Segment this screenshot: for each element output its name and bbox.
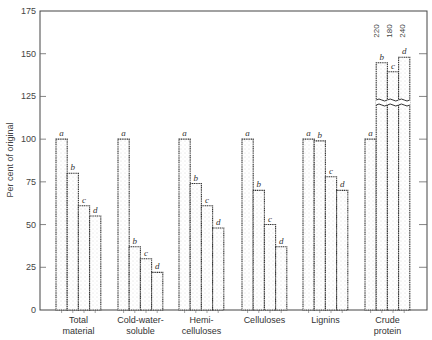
y-axis-label: Per cent of original [5, 122, 15, 197]
bar: b [67, 162, 78, 313]
category-label: Cold-water- [117, 315, 164, 325]
category-label: material [62, 326, 94, 336]
bar: a [303, 128, 314, 313]
bar-letter-label: d [279, 236, 284, 246]
y-tick-label: 125 [21, 91, 36, 101]
bar-value-label: 180 [385, 24, 394, 38]
bar-letter-label: b [257, 179, 262, 189]
y-tick-label: 175 [21, 6, 36, 16]
bar-letter-label: b [318, 130, 323, 140]
bar-letter-label: d [155, 261, 160, 271]
x-axis-labels: TotalmaterialCold-water-solubleHemi-cell… [62, 315, 401, 336]
bar: 240d [398, 24, 410, 313]
bar-letter-label: b [380, 52, 385, 62]
bar-letter-label: b [71, 162, 76, 172]
bar-letter-label: a [306, 128, 311, 138]
bar-letter-label: d [340, 179, 345, 189]
bar: b [190, 173, 201, 313]
y-tick-label: 25 [26, 262, 36, 272]
bar: a [242, 128, 253, 313]
bar-value-label: 220 [372, 24, 381, 38]
bar: a [118, 128, 129, 313]
bar-letter-label: c [144, 248, 148, 258]
y-tick-label: 100 [21, 134, 36, 144]
y-tick-label: 0 [31, 305, 36, 315]
bar-chart: 0255075100125150175 abcdabcdabcdabcdabcd… [0, 0, 432, 340]
bar: d [90, 205, 101, 313]
bar-letter-label: c [205, 195, 209, 205]
bar: a [56, 128, 67, 313]
bar: d [213, 217, 224, 313]
bar: d [337, 179, 348, 313]
bar: c [140, 248, 151, 313]
bar: b [253, 179, 264, 313]
category-label: Crude [375, 315, 400, 325]
bar: c [264, 214, 275, 313]
bar-letter-label: d [402, 46, 407, 56]
bar: a [365, 128, 376, 313]
bar-letter-label: a [59, 128, 64, 138]
bar-letter-label: a [245, 128, 250, 138]
bar-letter-label: a [182, 128, 187, 138]
category-label: soluble [126, 326, 155, 336]
bar-letter-label: a [121, 128, 126, 138]
bar: d [152, 261, 163, 313]
category-label: Hemi- [189, 315, 213, 325]
y-tick-label: 75 [26, 177, 36, 187]
category-label: Celluloses [244, 315, 286, 325]
bar-letter-label: d [216, 217, 221, 227]
bar: c [201, 195, 212, 313]
bars: abcdabcdabcdabcdabcda220b180c240d [56, 24, 410, 313]
bar: a [179, 128, 190, 313]
bar-letter-label: b [194, 173, 199, 183]
category-label: Lignins [311, 315, 340, 325]
bar-letter-label: c [82, 195, 86, 205]
bar-letter-label: c [391, 61, 395, 71]
bar: c [325, 166, 336, 313]
bar-letter-label: a [368, 128, 373, 138]
y-tick-label: 50 [26, 220, 36, 230]
category-label: celluloses [182, 326, 222, 336]
bar: b [314, 130, 325, 313]
bar-value-label: 240 [398, 24, 407, 38]
bar-letter-label: c [329, 166, 333, 176]
bar-letter-label: c [268, 214, 272, 224]
category-label: Total [69, 315, 88, 325]
bar-letter-label: b [133, 236, 138, 246]
bar: b [129, 236, 140, 313]
category-label: protein [374, 326, 402, 336]
bar: d [276, 236, 287, 313]
y-tick-label: 150 [21, 49, 36, 59]
bar: c [78, 195, 89, 313]
bar-letter-label: d [93, 205, 98, 215]
